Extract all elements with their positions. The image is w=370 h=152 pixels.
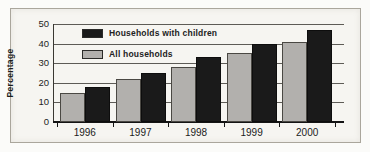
x-axis-tick xyxy=(224,123,225,127)
gridline xyxy=(53,24,344,25)
bar-households-with-children-1996 xyxy=(85,87,110,122)
x-axis-tick xyxy=(113,123,114,127)
x-axis-tick xyxy=(279,123,280,127)
bar-all-households-1997 xyxy=(116,79,141,122)
x-axis-tick xyxy=(168,123,169,127)
x-tick-label: 1997 xyxy=(129,127,151,138)
bar-all-households-1999 xyxy=(227,53,252,122)
bar-all-households-2000 xyxy=(282,42,307,122)
x-tick-label: 1999 xyxy=(240,127,262,138)
bar-chart: Percentage 01020304050199619971998199920… xyxy=(0,0,370,152)
legend-item-households-with-children: Households with children xyxy=(82,27,217,39)
legend-label: Households with children xyxy=(109,28,217,38)
scanned-chart-page: Percentage 01020304050199619971998199920… xyxy=(0,0,370,152)
x-axis-tick xyxy=(57,123,58,127)
y-tick-label: 30 xyxy=(23,58,49,68)
x-axis-tick xyxy=(335,123,336,127)
y-tick-label: 40 xyxy=(23,39,49,49)
bar-households-with-children-1997 xyxy=(141,73,166,122)
chart-legend: Households with children All households xyxy=(82,27,217,69)
legend-item-all-households: All households xyxy=(82,48,217,60)
legend-label: All households xyxy=(109,49,173,59)
x-tick-label: 1996 xyxy=(74,127,96,138)
bar-households-with-children-1999 xyxy=(252,44,277,122)
y-tick-label: 50 xyxy=(23,19,49,29)
bar-all-households-1998 xyxy=(171,67,196,122)
x-tick-label: 1998 xyxy=(185,127,207,138)
bar-all-households-1996 xyxy=(60,93,85,122)
x-tick-label: 2000 xyxy=(296,127,318,138)
black-swatch-icon xyxy=(82,29,103,38)
bar-households-with-children-2000 xyxy=(307,30,332,122)
gray-swatch-icon xyxy=(82,50,103,59)
y-tick-label: 10 xyxy=(23,97,49,107)
y-tick-label: 20 xyxy=(23,78,49,88)
y-axis-line xyxy=(53,24,54,122)
y-tick-label: 0 xyxy=(23,117,49,127)
